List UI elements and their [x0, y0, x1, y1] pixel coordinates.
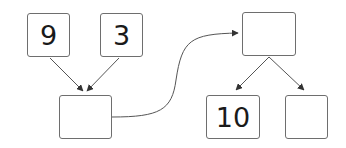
empty-box-bottom-right: [285, 95, 328, 139]
arrow-9-to-middle: [50, 58, 83, 91]
box-value: 3: [113, 20, 130, 51]
arrow-3-to-middle: [87, 58, 119, 91]
number-box-3: 3: [100, 13, 143, 57]
empty-box-middle-left: [59, 95, 112, 139]
number-box-9: 9: [27, 13, 70, 57]
arrow-top-right-to-10: [236, 57, 269, 90]
number-box-10: 10: [206, 95, 260, 139]
arrow-top-right-to-blank: [269, 57, 304, 90]
box-value: 9: [40, 20, 57, 51]
box-value: 10: [216, 102, 250, 133]
empty-box-top-right: [242, 12, 296, 56]
